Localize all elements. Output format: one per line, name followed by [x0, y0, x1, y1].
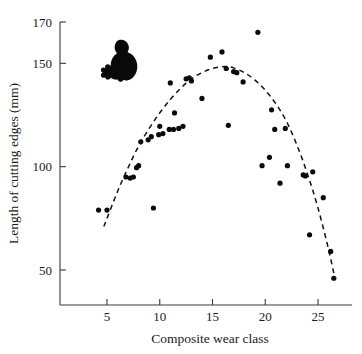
- figure-root: 50100150170 510152025 Composite wear cla…: [0, 0, 362, 354]
- data-point: [138, 139, 143, 144]
- data-point: [171, 127, 176, 132]
- x-tick-label: 10: [153, 309, 166, 324]
- data-point: [328, 249, 333, 254]
- x-axis-title: Composite wear class: [151, 331, 269, 346]
- x-tick-label: 20: [259, 309, 272, 324]
- data-point: [321, 195, 326, 200]
- data-point: [307, 232, 312, 237]
- y-tick-label: 100: [33, 159, 53, 174]
- koala-body: [101, 40, 137, 82]
- data-point: [303, 173, 308, 178]
- data-point: [180, 124, 185, 129]
- data-point: [160, 131, 165, 136]
- y-tick-label: 50: [39, 263, 52, 278]
- x-tick-label: 5: [104, 309, 111, 324]
- data-point: [226, 123, 231, 128]
- data-point: [272, 127, 277, 132]
- data-point: [240, 79, 245, 84]
- y-axis-title: Length of cutting edges (mm): [6, 83, 21, 244]
- x-axis-tick-labels: 510152025: [104, 309, 325, 324]
- data-point: [224, 66, 229, 71]
- data-point: [234, 70, 239, 75]
- data-point: [131, 174, 136, 179]
- y-axis-tick-labels: 50100150170: [33, 15, 53, 278]
- data-point: [267, 155, 272, 160]
- data-point: [259, 163, 264, 168]
- koala-silhouette-icon: [101, 40, 137, 82]
- data-point: [199, 96, 204, 101]
- data-point: [283, 126, 288, 131]
- data-point: [136, 163, 141, 168]
- fitted-trend-curve: [104, 66, 335, 278]
- data-point: [331, 276, 336, 281]
- y-axis-ticks: [60, 22, 66, 270]
- data-point: [255, 30, 260, 35]
- y-tick-label: 170: [33, 15, 53, 30]
- data-point: [269, 107, 274, 112]
- x-tick-label: 25: [312, 309, 325, 324]
- x-tick-label: 15: [206, 309, 219, 324]
- data-point: [96, 207, 101, 212]
- data-point: [168, 80, 173, 85]
- data-point: [157, 124, 162, 129]
- axes-group: [60, 22, 352, 305]
- data-point: [104, 207, 109, 212]
- data-point: [208, 55, 213, 60]
- data-point: [219, 49, 224, 54]
- scatter-plot: 50100150170 510152025 Composite wear cla…: [0, 0, 362, 354]
- y-tick-label: 150: [33, 56, 53, 71]
- x-axis-ticks: [107, 299, 318, 305]
- data-point: [189, 78, 194, 83]
- data-point: [151, 205, 156, 210]
- data-point: [285, 163, 290, 168]
- data-point: [310, 169, 315, 174]
- data-point: [172, 110, 177, 115]
- data-point: [149, 134, 154, 139]
- data-point: [277, 181, 282, 186]
